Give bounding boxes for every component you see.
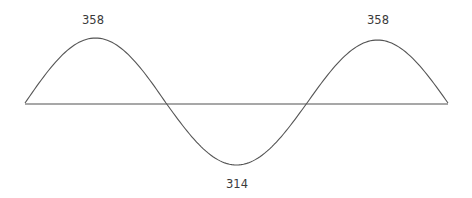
wave-curve <box>25 38 448 165</box>
trough-label: 314 <box>226 177 248 191</box>
peak-label-left: 358 <box>82 13 104 27</box>
peak-label-right: 358 <box>367 13 389 27</box>
wave-diagram: 358 314 358 <box>0 0 472 198</box>
